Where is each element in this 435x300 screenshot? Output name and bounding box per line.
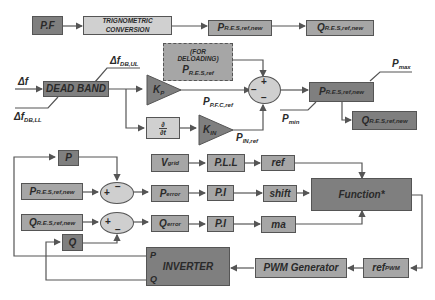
shift-label: shift — [269, 189, 290, 199]
dfll-main: Δf — [14, 111, 24, 122]
deriv-den: ∂t — [160, 129, 166, 136]
q-res-ref-new-top-block: QR.E.S,ref,new — [306, 20, 374, 36]
pwm-generator-block: PWM Generator — [255, 258, 347, 278]
pwm-label: PWM Generator — [263, 263, 338, 273]
p-pfc-ref-label: PP.F.C,ref — [203, 97, 233, 108]
deloading-sub: R.E.S,ref — [189, 70, 214, 76]
pmin-sub: min — [289, 119, 300, 125]
p-max-label: Pmax — [392, 59, 411, 70]
trig-label-1: TRIGNOMETRIC — [102, 18, 152, 25]
qerr-sub: error — [167, 221, 181, 227]
qfb-label: Q — [69, 238, 77, 248]
lim-sub: R.E.S,ref,new — [326, 89, 364, 95]
perr-sub: error — [166, 191, 180, 197]
p-res-ref-new-limiter-block: PR.E.S,ref,new — [309, 82, 374, 102]
deloading-main: P — [182, 64, 189, 75]
pmax-sub: max — [399, 64, 411, 70]
p-in-ref-label: PIN,ref — [236, 133, 258, 144]
pin2-sub: R.E.S,ref,new — [36, 189, 74, 195]
pi-block-2: P.I — [207, 216, 234, 232]
sum-p-minus: − — [115, 181, 121, 192]
pin-sub: IN,ref — [243, 138, 258, 144]
p-sub: R.E.S,ref,new — [224, 25, 262, 31]
deriv-num: ∂ — [159, 121, 166, 129]
ppfc-sub: P.F.C,ref — [210, 102, 233, 108]
q-res-ref-new-output-block: QR.E.S,ref,new — [352, 111, 417, 130]
delta-f-ul-label: ΔfDB,UL — [110, 56, 138, 67]
q-res-ref-new-input-block: QR.E.S,ref,new — [21, 214, 83, 231]
sum-top-minus-left: − — [251, 84, 257, 95]
sum-p-plus: + — [104, 187, 110, 198]
p-error-block: Perror — [151, 185, 189, 202]
ref-pwm-block: refPWM — [363, 258, 409, 278]
dfll-sub: DB,LL — [24, 117, 42, 123]
p-main: P — [217, 23, 224, 33]
pin2-main: P — [29, 187, 36, 197]
vgrid-sub: grid — [168, 160, 179, 166]
vgrid-main: V — [161, 158, 168, 168]
kp-label: KP — [153, 85, 164, 96]
pin-main: P — [236, 132, 243, 143]
pf-label: P.F — [40, 21, 54, 31]
trig-conversion-block: TRIGNOMETRIC CONVERSION — [83, 16, 172, 35]
ppfc-main: P — [203, 96, 210, 107]
deloading-line2: DELOADING) — [177, 56, 218, 63]
kin-label: KIN — [203, 125, 216, 136]
ref-block: ref — [261, 155, 295, 171]
derivative-block: ∂ ∂t — [146, 117, 180, 139]
p-res-ref-new-top-block: PR.E.S,ref,new — [208, 20, 272, 36]
shift-block: shift — [263, 185, 297, 202]
dful-main: Δf — [110, 55, 120, 66]
pi-block-1: P.I — [207, 185, 234, 201]
pmax-main: P — [392, 58, 399, 69]
qin2-sub: R.E.S,ref,new — [37, 220, 75, 226]
pfb-label: P — [65, 153, 72, 163]
ma-label: ma — [271, 220, 285, 230]
perr-main: P — [160, 189, 167, 199]
sum-top-plus: + — [261, 76, 267, 87]
p-res-ref-new-input-block: PR.E.S,ref,new — [21, 183, 83, 200]
q-main: Q — [317, 23, 325, 33]
inverter-q-port: Q — [150, 274, 157, 284]
sum-q-plus: + — [105, 216, 111, 227]
refpwm-main: ref — [372, 263, 385, 273]
kin-sub: IN — [210, 130, 216, 136]
sum-top-minus-bottom: − — [261, 92, 267, 103]
vgrid-block: Vgrid — [151, 154, 189, 172]
q-feedback-block: Q — [62, 234, 83, 251]
ma-block: ma — [261, 216, 296, 233]
q-error-block: Qerror — [151, 215, 189, 232]
pf-block: P.F — [32, 16, 63, 35]
qout-main: Q — [361, 116, 369, 126]
dead-band-label: DEAD BAND — [46, 84, 106, 94]
delta-f-label: Δf — [18, 77, 28, 87]
control-block-diagram: P.F TRIGNOMETRIC CONVERSION PR.E.S,ref,n… — [0, 0, 435, 300]
q-sub: R.E.S,ref,new — [325, 25, 363, 31]
inverter-block: INVERTER — [146, 247, 230, 286]
refpwm-sub: PWM — [385, 265, 400, 271]
delta-f-ll-label: ΔfDB,LL — [14, 112, 42, 123]
sum-q-minus: − — [115, 224, 121, 235]
qerr-main: Q — [159, 219, 167, 229]
deloading-signal: PR.E.S,ref — [182, 65, 214, 76]
qin2-main: Q — [29, 218, 37, 228]
inverter-p-port: P — [150, 250, 156, 260]
function-block: Function* — [311, 178, 412, 211]
kp-sub: P — [160, 90, 164, 96]
ref-label: ref — [272, 158, 285, 168]
pi2-label: P.I — [215, 219, 226, 229]
df-main: Δf — [18, 76, 28, 87]
function-label: Function* — [338, 190, 384, 200]
qout-sub: R.E.S,ref,new — [369, 118, 407, 124]
trig-label-2: CONVERSION — [106, 27, 150, 34]
p-min-label: Pmin — [282, 114, 299, 125]
pll-block: P.L.L — [207, 154, 245, 172]
pmin-main: P — [282, 113, 289, 124]
dead-band-block: DEAD BAND — [43, 81, 109, 97]
lim-main: P — [319, 87, 326, 97]
pll-label: P.L.L — [214, 158, 237, 168]
inverter-label: INVERTER — [163, 262, 213, 272]
dful-sub: DB,UL — [120, 61, 138, 67]
p-feedback-block: P — [58, 150, 79, 166]
pi1-label: P.I — [215, 188, 226, 198]
